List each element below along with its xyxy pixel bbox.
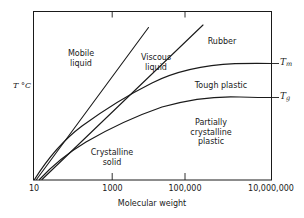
region-label-mobile-liquid: Mobile liquid xyxy=(58,49,104,68)
region-label-partially-crystalline-plastic: Partially crystalline plastic xyxy=(180,118,242,147)
tg-axis-label: Tg xyxy=(280,91,290,103)
region-label-rubber: Rubber xyxy=(202,37,242,47)
y-axis-title: T °C xyxy=(8,81,36,90)
x-tick-label-1000: 1000 xyxy=(94,184,131,193)
region-label-tough-plastic: Tough plastic xyxy=(190,81,252,91)
x-tick-label-10: 10 xyxy=(26,184,42,193)
x-tick-label-100000: 100,000 xyxy=(161,184,209,193)
x-axis-title: Molecular weight xyxy=(33,199,271,208)
x-tick-label-10000000: 10,000,000 xyxy=(240,184,302,193)
tm-subscript: m xyxy=(286,60,292,68)
tm-axis-label: Tm xyxy=(280,57,292,69)
tg-subscript: g xyxy=(286,94,290,102)
region-label-crystalline-solid: Crystalline solid xyxy=(84,148,140,167)
region-label-viscous-liquid: Viscous liquid xyxy=(133,53,179,72)
polymer-state-diagram: T °C Molecular weight 10 1000 100,000 10… xyxy=(0,0,304,218)
